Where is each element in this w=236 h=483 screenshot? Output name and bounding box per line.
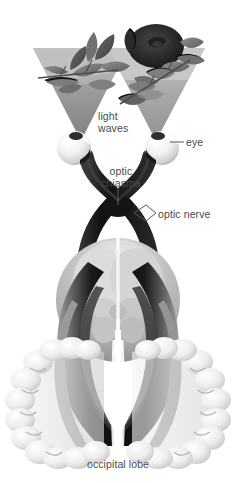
label-eye: eye bbox=[186, 137, 203, 149]
left-pupil bbox=[69, 132, 83, 140]
label-optic-chiasma-line1: optic bbox=[101, 165, 141, 177]
label-light-waves-line2: waves bbox=[98, 122, 128, 134]
label-light-waves-line1: light bbox=[98, 110, 128, 122]
right-occipital-lobe bbox=[126, 337, 231, 469]
right-pupil bbox=[151, 132, 165, 140]
label-optic-chiasma-line2: chiasma bbox=[101, 177, 141, 189]
label-occipital-lobe: occipital lobe bbox=[0, 459, 236, 471]
label-optic-nerve: optic nerve bbox=[158, 209, 210, 221]
label-optic-chiasma: optic chiasma bbox=[101, 165, 141, 189]
left-occipital-lobe bbox=[5, 337, 110, 469]
figure-artwork bbox=[0, 0, 236, 483]
visual-pathway-figure: light waves eye optic chiasma optic nerv… bbox=[0, 0, 236, 483]
label-light-waves: light waves bbox=[98, 110, 128, 134]
